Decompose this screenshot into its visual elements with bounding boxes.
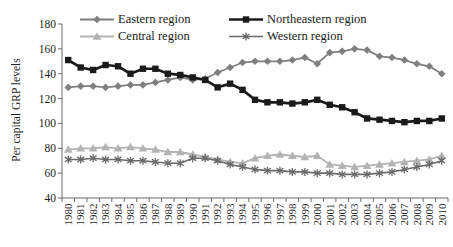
series-northeastern-region-marker [289,100,295,106]
legend-item-eastern-region: Eastern region [80,13,191,26]
series-northeastern-region-marker [401,119,407,125]
legend-key-central-region [80,30,114,43]
series-northeastern-region-marker [77,64,83,70]
x-tick-label: 1992 [211,204,223,226]
series-eastern-region-marker [102,84,110,92]
x-tick-label: 2010 [436,203,448,226]
series-northeastern-region-marker [439,115,445,121]
x-tick-label: 1987 [149,203,161,226]
x-tick-label: 1998 [286,203,298,226]
y-tick-label: 80 [45,142,57,154]
series-northeastern-region-marker [314,97,320,103]
x-tick-label: 2007 [398,203,410,226]
series-northeastern-region-marker [302,99,308,105]
series-northeastern-region-marker [102,62,108,68]
series-eastern-region-marker [127,81,135,89]
series-northeastern-region-marker [327,102,333,108]
x-tick-label: 1991 [199,204,211,226]
x-tick-label: 2004 [361,203,373,226]
series-northeastern-region [65,57,445,126]
series-northeastern-region-marker [152,66,158,72]
x-tick-label: 1983 [99,203,111,226]
y-tick-label: 100 [39,117,57,129]
series-eastern-region-marker [251,57,259,65]
series-eastern-region-marker [376,53,384,61]
series-northeastern-region-marker [364,115,370,121]
x-tick-label: 1990 [187,203,199,226]
series-northeastern-region-marker [65,57,71,63]
series-eastern-region-marker [89,82,97,90]
series-eastern-region-marker [276,57,284,65]
series-northeastern-region-marker [339,104,345,110]
series-eastern-region-marker [289,56,297,64]
legend-item-central-region: Central region [80,30,190,43]
series-northeastern-region-marker [264,99,270,105]
series-eastern-region-marker [438,70,446,78]
series-eastern-region-marker [139,81,147,89]
grp-line-chart-figure: 4060801001201401601801980198119821983198… [0,0,453,247]
x-tick-label: 2006 [386,203,398,226]
series-eastern-region-marker [239,59,247,67]
series-eastern-region-marker [214,69,222,77]
x-tick-label: 2002 [336,204,348,226]
x-tick-label: 1999 [299,203,311,226]
series-eastern-region-marker [164,76,172,84]
series-northeastern-region-marker [389,118,395,124]
chart-legend: Eastern region Northeastern region Centr… [0,0,453,50]
series-northeastern-region-marker [277,99,283,105]
y-axis-title: Per capital GRP levels [10,45,26,175]
y-tick-label: 40 [45,192,57,204]
x-tick-label: 2008 [411,203,423,226]
series-northeastern-region-line [68,60,442,122]
x-tick-label: 2009 [423,203,435,226]
x-tick-label: 1986 [137,203,149,226]
series-northeastern-region-marker [90,67,96,73]
x-tick-label: 1993 [224,203,236,226]
x-tick-label: 1985 [124,203,136,226]
series-northeastern-region-marker [426,118,432,124]
y-tick-label: 120 [39,93,57,105]
legend-label-western-region: Western region [267,30,343,43]
x-tick-label: 1984 [112,203,124,226]
series-northeastern-region-marker [127,71,133,77]
legend-key-western-region [229,30,263,43]
y-tick-label: 140 [39,68,57,80]
legend-item-northeastern-region: Northeastern region [229,13,367,26]
series-eastern-region-marker [401,56,409,64]
series-northeastern-region-marker [239,87,245,93]
legend-item-western-region: Western region [229,30,343,43]
series-northeastern-region-marker [115,63,121,69]
series-northeastern-region-marker [351,109,357,115]
x-tick-label: 2005 [373,203,385,226]
series-northeastern-region-marker [414,118,420,124]
series-eastern-region-marker [301,54,309,62]
series-northeastern-region-marker [252,97,258,103]
series-northeastern-region-marker [227,80,233,86]
series-eastern-region-marker [388,54,396,62]
legend-key-marker [93,16,101,24]
x-tick-label: 2000 [311,203,323,226]
series-eastern-region-marker [64,84,72,92]
series-northeastern-region-marker [165,71,171,77]
series-eastern-region-marker [152,79,160,87]
series-eastern-region-marker [413,60,421,68]
legend-label-eastern-region: Eastern region [118,13,191,26]
x-tick-label: 1989 [174,203,186,226]
series-northeastern-region-marker [177,72,183,78]
x-tick-label: 1982 [87,204,99,226]
x-tick-label: 1995 [249,203,261,226]
series-northeastern-region-marker [214,84,220,90]
legend-key-eastern-region [80,13,114,26]
series-eastern-region-marker [264,57,272,65]
x-tick-label: 2003 [348,203,360,226]
series-eastern-region-marker [114,82,122,90]
x-tick-label: 1988 [162,203,174,226]
series-northeastern-region-marker [376,117,382,123]
series-northeastern-region-marker [202,77,208,83]
x-tick-label: 1997 [274,203,286,226]
series-northeastern-region-marker [190,74,196,80]
x-tick-label: 1996 [261,203,273,226]
x-tick-label: 1981 [74,204,86,226]
series-northeastern-region-marker [140,66,146,72]
series-eastern-region-marker [226,64,234,72]
